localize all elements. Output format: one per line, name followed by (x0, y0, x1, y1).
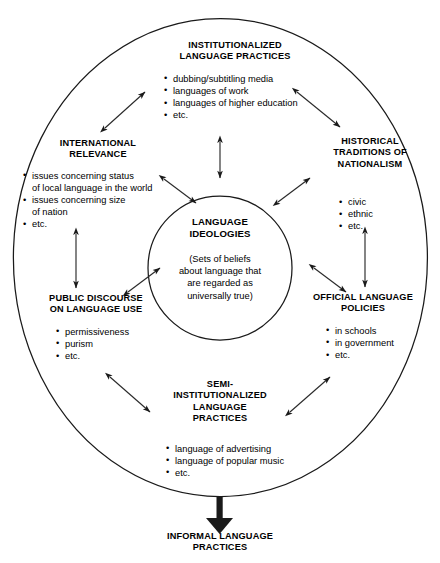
list-item: civic (339, 196, 430, 208)
list-item: issues concerning status of local langua… (23, 170, 174, 194)
node-title: HISTORICAL TRADITIONS OF NATIONALISM (310, 136, 430, 170)
connector-semi-official (290, 377, 330, 412)
list-item: in government (326, 337, 430, 349)
node-title: SEMI- INSTITUTIONALIZED LANGUAGE PRACTIC… (152, 379, 288, 425)
list-item: issues concerning size of nation (23, 194, 174, 218)
list-item: dubbing/subtitling media (164, 73, 330, 85)
node-historical-traditions-of-nationalism: HISTORICAL TRADITIONS OF NATIONALISM civ… (310, 136, 430, 233)
list-item: etc. (166, 467, 288, 479)
node-title: PUBLIC DISCOURSE ON LANGUAGE USE (22, 293, 170, 316)
node-informal-language-practices: INFORMAL LANGUAGE PRACTICES (135, 531, 305, 554)
center-node-title: LANGUAGE IDEOLOGIES (189, 216, 250, 240)
node-bullet-list: dubbing/subtitling media languages of wo… (140, 73, 330, 121)
list-item: language of advertising (166, 443, 288, 455)
node-institutionalized-language-practices: INSTITUTIONALIZED LANGUAGE PRACTICES dub… (140, 40, 330, 121)
node-title: INTERNATIONAL RELEVANCE (22, 138, 174, 161)
center-node-description: (Sets of beliefs about language that are… (179, 253, 261, 302)
list-item: etc. (326, 349, 430, 361)
list-item: etc. (339, 220, 430, 232)
list-item: permissiveness (56, 326, 170, 338)
connector-international-institutionalized (105, 92, 145, 128)
language-ideologies-diagram: LANGUAGE IDEOLOGIES (Sets of beliefs abo… (0, 0, 440, 563)
node-bullet-list: civic ethnic etc. (310, 196, 430, 232)
node-international-relevance: INTERNATIONAL RELEVANCE issues concernin… (22, 138, 174, 230)
list-item: etc. (164, 109, 330, 121)
connector-public-semi (110, 377, 150, 412)
node-bullet-list: language of advertising language of popu… (152, 443, 288, 479)
list-item: etc. (23, 218, 174, 230)
node-public-discourse-on-language-use: PUBLIC DISCOURSE ON LANGUAGE USE permiss… (22, 293, 170, 362)
list-item: purism (56, 338, 170, 350)
list-item: in schools (326, 325, 430, 337)
list-item: languages of higher education (164, 97, 330, 109)
node-title: OFFICIAL LANGUAGE POLICIES (296, 292, 430, 315)
node-title: INFORMAL LANGUAGE PRACTICES (135, 531, 305, 554)
list-item: language of popular music (166, 455, 288, 467)
node-bullet-list: permissiveness purism etc. (22, 326, 170, 362)
node-title: INSTITUTIONALIZED LANGUAGE PRACTICES (140, 40, 330, 63)
terminal-arrow-to-informal (206, 496, 233, 534)
list-item: ethnic (339, 208, 430, 220)
list-item: languages of work (164, 85, 330, 97)
connector-official-center (314, 268, 346, 292)
node-bullet-list: in schools in government etc. (296, 325, 430, 361)
node-official-language-policies: OFFICIAL LANGUAGE POLICIES in schools in… (296, 292, 430, 361)
node-semi-institutionalized-language-practices: SEMI- INSTITUTIONALIZED LANGUAGE PRACTIC… (152, 379, 288, 479)
list-item: etc. (56, 350, 170, 362)
node-bullet-list: issues concerning status of local langua… (22, 170, 174, 230)
